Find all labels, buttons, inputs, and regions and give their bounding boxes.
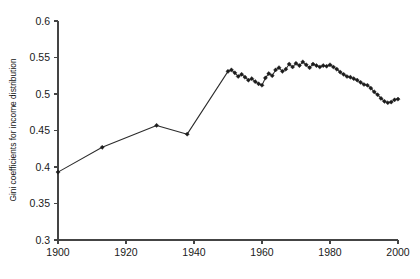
x-tick-label: 1960 xyxy=(250,246,274,258)
y-tick-label: 0.5 xyxy=(35,88,50,100)
x-tick-label: 2000 xyxy=(386,246,410,258)
x-tick-label: 1940 xyxy=(182,246,206,258)
data-point-marker xyxy=(155,123,159,127)
x-axis-ticks: 190019201940196019802000 xyxy=(46,240,410,258)
y-axis-title: Gini coefficients for income distributio… xyxy=(8,58,18,202)
series-markers-gini xyxy=(56,60,400,174)
y-tick-label: 0.35 xyxy=(30,197,51,209)
x-axis-group: 190019201940196019802000 xyxy=(46,240,410,258)
data-point-marker xyxy=(56,170,60,174)
y-axis-group: 0.30.350.40.450.50.550.6 Gini coefficien… xyxy=(8,15,58,246)
x-tick-label: 1920 xyxy=(114,246,138,258)
x-tick-label: 1900 xyxy=(46,246,70,258)
y-tick-label: 0.55 xyxy=(30,51,51,63)
y-tick-label: 0.4 xyxy=(35,161,50,173)
data-point-marker xyxy=(100,145,104,149)
x-tick-label: 1980 xyxy=(318,246,342,258)
y-axis-ticks: 0.30.350.40.450.50.550.6 xyxy=(30,15,58,246)
y-tick-label: 0.3 xyxy=(35,234,50,246)
series-group xyxy=(56,60,400,174)
chart-container: 0.30.350.40.450.50.550.6 Gini coefficien… xyxy=(0,0,420,279)
y-tick-label: 0.6 xyxy=(35,15,50,27)
data-point-marker xyxy=(396,97,400,101)
gini-coefficient-line-chart: 0.30.350.40.450.50.550.6 Gini coefficien… xyxy=(0,0,420,279)
y-tick-label: 0.45 xyxy=(30,124,51,136)
